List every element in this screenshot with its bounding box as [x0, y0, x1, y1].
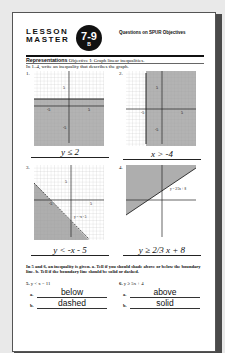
svg-text:5: 5 — [156, 85, 158, 90]
label-5a: a. — [30, 292, 33, 297]
svg-text:5: 5 — [88, 107, 90, 112]
part1-instructions: In 1–4, write an inequality that describ… — [26, 64, 129, 69]
answer-1: y ≤ 2 — [31, 147, 109, 158]
answer-2: x > -4 — [123, 149, 201, 160]
svg-text:5: 5 — [63, 85, 65, 90]
worksheet-page: LESSON MASTER 7-9 B Questions on SPUR Ob… — [12, 12, 216, 352]
svg-text:-5: -5 — [63, 125, 66, 130]
spur-title: Questions on SPUR Objectives — [119, 30, 186, 35]
graph-1: 5 -5 -5 5 — [34, 71, 104, 146]
lesson-number-badge: 7-9 B — [76, 25, 102, 51]
question-number: 3. — [26, 165, 30, 170]
svg-text:y = -x - 5: y = -x - 5 — [74, 215, 87, 219]
inequality-6: y ≥ 5x + 4 — [124, 281, 144, 286]
answer-5a: below — [37, 288, 107, 298]
svg-text:-5: -5 — [155, 127, 158, 132]
graph-2: 5 -5 -5 5 — [126, 71, 196, 146]
part2-instructions: In 5 and 6, an inequality is given. a. T… — [26, 264, 208, 275]
answer-6b: solid — [130, 299, 200, 309]
answer-6a: above — [130, 288, 200, 298]
svg-text:-5: -5 — [141, 110, 144, 115]
question-5: 5. y < x − 11 — [26, 281, 50, 286]
question-number: 1. — [26, 71, 30, 76]
svg-text:-5: -5 — [49, 201, 52, 206]
question-number: 5. — [26, 281, 30, 286]
svg-text:5: 5 — [181, 110, 183, 115]
question-number: 4. — [119, 165, 123, 170]
question-number: 2. — [119, 71, 123, 76]
lesson-master-title: LESSON MASTER — [26, 28, 69, 44]
label-5b: b. — [30, 303, 34, 308]
page-shadow-right — [216, 14, 222, 353]
label-6a: a. — [123, 292, 126, 297]
question-6: 6. y ≥ 5x + 4 — [119, 281, 144, 286]
answer-3: y < -x - 5 — [31, 245, 109, 256]
label-6b: b. — [123, 303, 127, 308]
lesson-level: B — [76, 42, 102, 47]
svg-text:-5: -5 — [47, 107, 50, 112]
svg-text:5: 5 — [65, 179, 67, 184]
svg-text:y = 2/3x + 8: y = 2/3x + 8 — [170, 187, 187, 191]
graph-4: y = 2/3x + 8 — [126, 165, 196, 240]
master-label: MASTER — [26, 36, 69, 44]
graph-3: 5 -5 5 y = -x - 5 — [34, 165, 104, 240]
answer-4: y ≥ 2/3 x + 8 — [123, 245, 201, 256]
question-number: 6. — [119, 281, 123, 286]
inequality-5: y < x − 11 — [31, 281, 51, 286]
answer-5b: dashed — [37, 299, 107, 309]
svg-text:5: 5 — [90, 201, 92, 206]
